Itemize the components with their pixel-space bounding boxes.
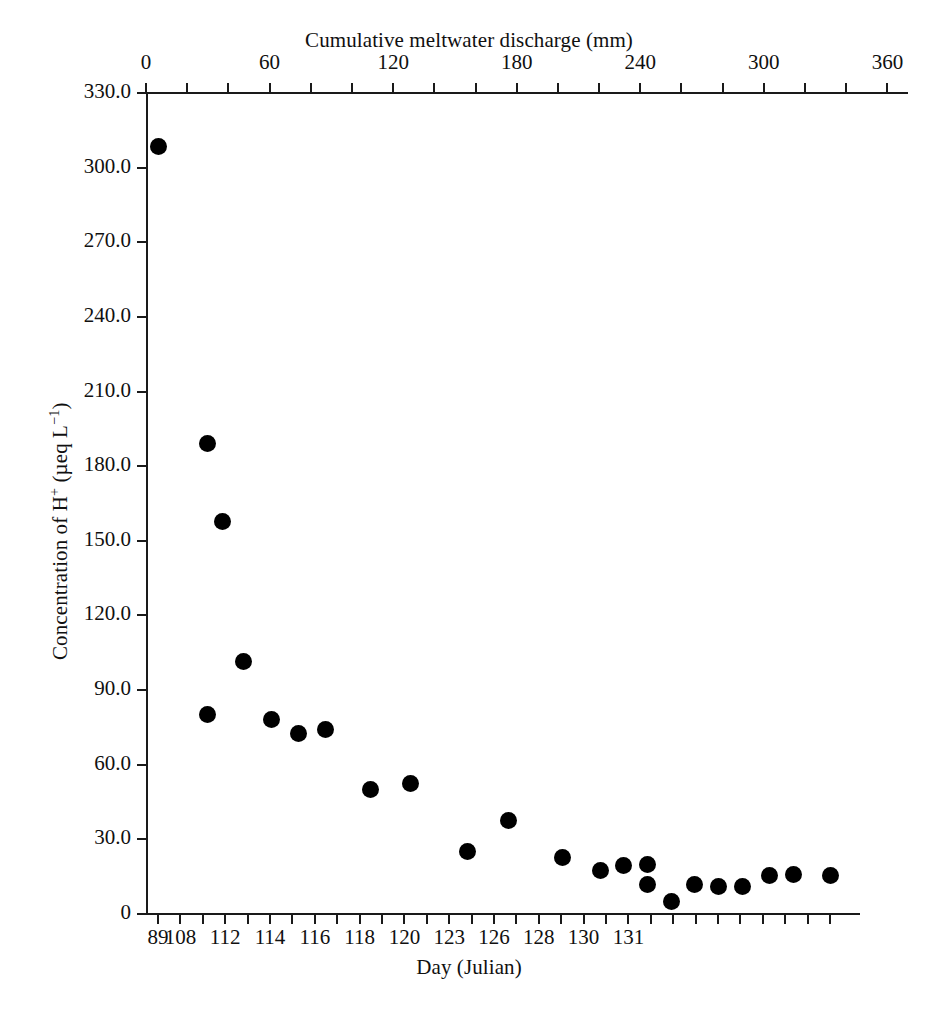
x-axis-tick: [179, 915, 181, 924]
data-point: [710, 878, 727, 895]
top-axis-tick: [269, 83, 271, 92]
top-axis-tick-label: 120: [353, 50, 433, 75]
x-axis-tick: [560, 915, 562, 924]
top-axis-tick: [186, 83, 188, 92]
x-axis-tick: [807, 915, 809, 924]
y-axis-tick-label: 240.0: [11, 303, 131, 328]
y-axis-tick: [137, 316, 146, 318]
x-axis-tick: [359, 915, 361, 924]
x-axis-tick: [403, 915, 405, 924]
top-axis-tick: [804, 83, 806, 92]
data-point: [500, 812, 517, 829]
x-axis-tick: [471, 915, 473, 924]
x-axis-tick: [291, 915, 293, 924]
x-axis-tick: [650, 915, 652, 924]
y-axis-tick: [137, 241, 146, 243]
y-axis-tick-label: 330.0: [11, 79, 131, 104]
y-axis-line: [146, 93, 148, 915]
y-axis-tick-label: 90.0: [11, 676, 131, 701]
y-axis-tick-label: 180.0: [11, 452, 131, 477]
y-axis-tick: [137, 838, 146, 840]
top-axis-tick: [227, 83, 229, 92]
x-axis-tick: [829, 915, 831, 924]
data-point: [199, 706, 216, 723]
x-axis-tick: [202, 915, 204, 924]
y-axis-tick: [137, 764, 146, 766]
data-point: [235, 653, 252, 670]
y-axis-tick: [137, 689, 146, 691]
y-axis-tick-label: 0: [11, 900, 131, 925]
data-point: [663, 893, 680, 910]
x-axis-tick: [627, 915, 629, 924]
top-axis-tick: [475, 83, 477, 92]
x-axis-tick: [672, 915, 674, 924]
x-axis-tick: [157, 915, 159, 924]
top-axis-tick-label: 360: [847, 50, 927, 75]
figure-container: Cumulative meltwater discharge (mm) Day …: [0, 0, 938, 1035]
x-axis-tick: [448, 915, 450, 924]
data-point: [785, 866, 802, 883]
top-axis-tick: [639, 83, 641, 92]
data-point: [734, 878, 751, 895]
top-axis-tick: [351, 83, 353, 92]
top-axis-tick: [145, 83, 147, 92]
data-point: [615, 857, 632, 874]
x-axis-tick: [314, 915, 316, 924]
y-axis-tick: [137, 391, 146, 393]
top-axis-tick: [598, 83, 600, 92]
y-axis-tick-label: 120.0: [11, 601, 131, 626]
x-axis-tick: [784, 915, 786, 924]
data-point: [362, 781, 379, 798]
y-axis-title-prefix: Concentration of H: [48, 496, 72, 660]
x-axis-tick: [247, 915, 249, 924]
top-axis-tick: [763, 83, 765, 92]
x-axis-tick: [269, 915, 271, 924]
y-axis-tick-label: 300.0: [11, 154, 131, 179]
data-point: [822, 867, 839, 884]
top-axis-tick: [557, 83, 559, 92]
x-axis-line: [146, 913, 860, 915]
x-axis-tick: [762, 915, 764, 924]
y-axis-title-charge-superscript: +: [46, 488, 62, 496]
bottom-axis-title: Day (Julian): [0, 955, 938, 980]
x-axis-tick: [336, 915, 338, 924]
y-axis-tick-label: 210.0: [11, 378, 131, 403]
data-point: [214, 513, 231, 530]
top-axis-tick: [722, 83, 724, 92]
data-point: [263, 711, 280, 728]
top-axis-tick-label: 240: [600, 50, 680, 75]
y-axis-title-exponent-superscript: −1: [46, 410, 62, 425]
top-axis-line: [146, 92, 908, 94]
data-point: [402, 775, 419, 792]
top-axis-tick: [516, 83, 518, 92]
y-axis-tick-label: 30.0: [11, 825, 131, 850]
data-point: [639, 856, 656, 873]
data-point: [317, 721, 334, 738]
data-point: [459, 843, 476, 860]
y-axis-tick: [137, 614, 146, 616]
data-point: [639, 876, 656, 893]
y-axis-tick: [137, 540, 146, 542]
y-axis-title-suffix: ): [48, 402, 72, 409]
top-axis-tick: [310, 83, 312, 92]
x-axis-tick: [605, 915, 607, 924]
y-axis-tick: [137, 465, 146, 467]
x-axis-tick: [538, 915, 540, 924]
top-axis-tick: [392, 83, 394, 92]
x-axis-tick: [381, 915, 383, 924]
data-point: [199, 435, 216, 452]
x-axis-tick-label: 131: [588, 925, 668, 950]
x-axis-tick: [583, 915, 585, 924]
y-axis-tick-label: 60.0: [11, 751, 131, 776]
x-axis-tick: [515, 915, 517, 924]
x-axis-tick: [717, 915, 719, 924]
x-axis-tick: [493, 915, 495, 924]
data-point: [150, 138, 167, 155]
top-axis-tick-label: 300: [724, 50, 804, 75]
data-point: [554, 849, 571, 866]
top-axis-tick-label: 0: [106, 50, 186, 75]
x-axis-tick: [739, 915, 741, 924]
top-axis-tick-label: 60: [230, 50, 310, 75]
x-axis-tick: [224, 915, 226, 924]
top-axis-tick-label: 180: [477, 50, 557, 75]
